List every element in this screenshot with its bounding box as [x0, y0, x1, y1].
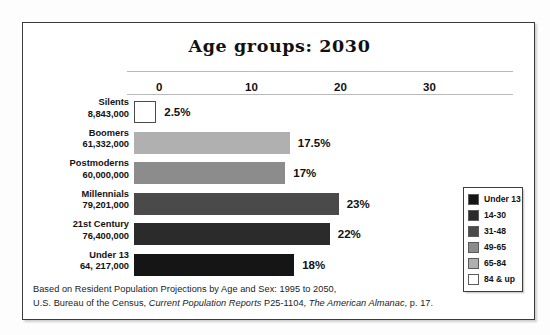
legend-item-label: 84 & up: [484, 274, 515, 284]
footnote-report-number: P25-1104,: [261, 298, 308, 308]
bar-category-label: Postmoderns60,000,000: [23, 158, 129, 181]
bar-value-label: 17.5%: [298, 136, 331, 151]
bar-value-label: 18%: [302, 258, 325, 273]
bar-category-label: Under 1364, 217,000: [23, 250, 129, 273]
footnote-page: , p. 17.: [405, 298, 434, 308]
legend-item-label: 65-84: [484, 258, 506, 268]
legend-swatch-icon: [468, 194, 479, 205]
bar[interactable]: [134, 132, 290, 154]
chart-screenshot: Age groups: 2030 0102030 Silents8,843,00…: [0, 0, 550, 335]
footnote-source: U.S. Bureau of the Census,: [33, 298, 149, 308]
legend-swatch-icon: [468, 210, 479, 221]
bar-category-name: Under 13: [23, 250, 129, 262]
bar-row: Boomers61,332,00017.5%: [23, 128, 536, 160]
bar-category-name: Boomers: [23, 128, 129, 140]
bar-value-label: 23%: [347, 197, 370, 212]
axis-tick-label: 20: [334, 81, 347, 93]
bar-category-label: Boomers61,332,000: [23, 128, 129, 151]
chart-footnote: Based on Resident Population Projections…: [33, 283, 463, 310]
bar[interactable]: [134, 101, 156, 123]
legend-item-label: 31-48: [484, 226, 506, 236]
bar-track: 17.5%: [134, 132, 524, 154]
bar-population-value: 60,000,000: [23, 170, 129, 182]
legend-item[interactable]: Under 13: [468, 192, 519, 207]
x-axis: 0102030: [127, 71, 513, 95]
legend-item[interactable]: 65-84: [468, 256, 519, 271]
axis-line-top: [127, 71, 513, 72]
bar-row: Under 1364, 217,00018%: [23, 250, 536, 282]
legend-swatch-icon: [468, 274, 479, 285]
footnote-italic-almanac: The American Almanac: [309, 298, 405, 308]
bar[interactable]: [134, 223, 330, 245]
bar-population-value: 8,843,000: [23, 109, 129, 121]
legend-item[interactable]: 84 & up: [468, 272, 519, 287]
bar-row: Postmoderns60,000,00017%: [23, 158, 536, 190]
bar-category-label: Millennials79,201,000: [23, 189, 129, 212]
footnote-line-2: U.S. Bureau of the Census, Current Popul…: [33, 297, 463, 311]
legend-item-label: Under 13: [484, 194, 521, 204]
bar-row: Millennials79,201,00023%: [23, 189, 536, 221]
bar-value-label: 22%: [338, 227, 361, 242]
bar-track: 17%: [134, 162, 524, 184]
bar-population-value: 64, 217,000: [23, 261, 129, 273]
bar-population-value: 61,332,000: [23, 139, 129, 151]
axis-tick-label: 0: [156, 81, 162, 93]
legend-item[interactable]: 31-48: [468, 224, 519, 239]
bar-category-name: Silents: [23, 97, 129, 109]
chart-legend: Under 1314-3031-4849-6565-8484 & up: [463, 187, 523, 292]
legend-item[interactable]: 14-30: [468, 208, 519, 223]
legend-swatch-icon: [468, 226, 479, 237]
axis-tick-label: 10: [245, 81, 258, 93]
bar-value-label: 17%: [293, 166, 316, 181]
bar-category-label: 21st Century76,400,000: [23, 219, 129, 242]
chart-frame: Age groups: 2030 0102030 Silents8,843,00…: [22, 22, 535, 320]
axis-line-bottom: [127, 94, 513, 95]
bar-category-name: 21st Century: [23, 219, 129, 231]
legend-item-label: 49-65: [484, 242, 506, 252]
legend-swatch-icon: [468, 242, 479, 253]
bar-population-value: 76,400,000: [23, 231, 129, 243]
bar-category-name: Postmoderns: [23, 158, 129, 170]
bar-category-label: Silents8,843,000: [23, 97, 129, 120]
bar[interactable]: [134, 254, 294, 276]
bar-category-name: Millennials: [23, 189, 129, 201]
bar[interactable]: [134, 193, 339, 215]
legend-item-label: 14-30: [484, 210, 506, 220]
page-title: Age groups: 2030: [23, 36, 536, 56]
bar[interactable]: [134, 162, 285, 184]
bar-value-label: 2.5%: [164, 105, 190, 120]
bar-row: 21st Century76,400,00022%: [23, 219, 536, 251]
bar-row: Silents8,843,0002.5%: [23, 97, 536, 129]
footnote-italic-report: Current Population Reports: [149, 298, 262, 308]
footnote-line-1: Based on Resident Population Projections…: [33, 283, 463, 297]
plot-area: Silents8,843,0002.5%Boomers61,332,00017.…: [23, 97, 536, 289]
bar-track: 2.5%: [134, 101, 524, 123]
legend-swatch-icon: [468, 258, 479, 269]
legend-item[interactable]: 49-65: [468, 240, 519, 255]
axis-tick-label: 30: [423, 81, 436, 93]
bar-population-value: 79,201,000: [23, 200, 129, 212]
